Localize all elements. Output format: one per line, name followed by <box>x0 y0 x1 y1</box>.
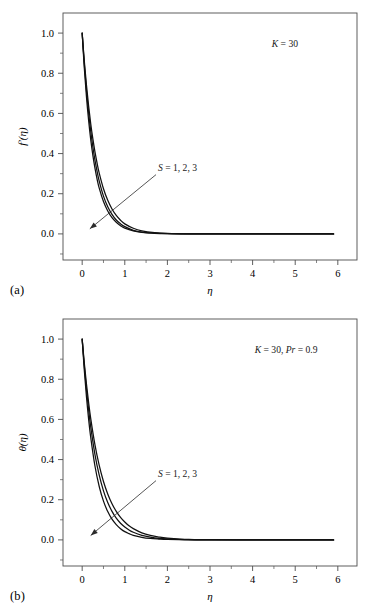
curve-label-annotation: S = 1, 2, 3 <box>158 468 197 479</box>
plot-b-svg: 01234560.00.20.40.60.81.0ηθ(η)K = 30, Pr… <box>0 306 368 612</box>
data-curve <box>82 339 333 540</box>
y-tick-label: 0.4 <box>41 454 55 465</box>
x-tick-label: 4 <box>250 574 256 585</box>
annotation-arrow-line <box>91 481 156 536</box>
annotation-arrow-head <box>90 222 97 228</box>
data-curve <box>82 339 333 540</box>
y-tick-label: 0.8 <box>41 68 54 79</box>
parameter-annotation: K = 30, Pr = 0.9 <box>254 344 318 355</box>
x-tick-label: 2 <box>165 268 170 279</box>
y-tick-label: 0.6 <box>41 108 54 119</box>
x-tick-label: 1 <box>122 574 127 585</box>
curve-label-annotation: S = 1, 2, 3 <box>158 162 197 173</box>
plot-a-svg: 01234560.00.20.40.60.81.0ηf′(η)K = 30S =… <box>0 0 368 306</box>
data-curve <box>82 339 333 540</box>
x-tick-label: 5 <box>293 574 298 585</box>
y-tick-label: 0.4 <box>41 148 55 159</box>
y-tick-label: 0.2 <box>41 188 54 199</box>
x-tick-label: 3 <box>207 574 212 585</box>
y-tick-label: 1.0 <box>41 28 54 39</box>
y-tick-label: 0.8 <box>41 374 54 385</box>
x-tick-label: 1 <box>122 268 127 279</box>
x-tick-label: 6 <box>335 574 340 585</box>
y-tick-label: 0.0 <box>41 228 54 239</box>
panel-b-label: (b) <box>10 589 25 604</box>
y-tick-label: 1.0 <box>41 334 54 345</box>
x-axis-title: η <box>207 590 212 602</box>
parameter-annotation: K = 30 <box>271 38 298 49</box>
y-tick-label: 0.2 <box>41 494 54 505</box>
y-axis-title: f′(η) <box>16 127 29 146</box>
y-axis-title: θ(η) <box>16 433 29 452</box>
x-tick-label: 0 <box>80 574 85 585</box>
panel-a-label: (a) <box>10 283 24 298</box>
x-tick-label: 4 <box>250 268 256 279</box>
x-tick-label: 3 <box>207 268 212 279</box>
plot-frame <box>63 13 357 260</box>
y-tick-label: 0.0 <box>41 534 54 545</box>
x-tick-label: 0 <box>80 268 85 279</box>
x-tick-label: 5 <box>293 268 298 279</box>
y-tick-label: 0.6 <box>41 414 54 425</box>
plot-frame <box>63 319 357 566</box>
figure-container: 01234560.00.20.40.60.81.0ηf′(η)K = 30S =… <box>0 0 368 612</box>
panel-b: 01234560.00.20.40.60.81.0ηθ(η)K = 30, Pr… <box>0 306 368 612</box>
panel-a: 01234560.00.20.40.60.81.0ηf′(η)K = 30S =… <box>0 0 368 306</box>
x-axis-title: η <box>207 284 212 296</box>
x-tick-label: 2 <box>165 574 170 585</box>
x-tick-label: 6 <box>335 268 340 279</box>
